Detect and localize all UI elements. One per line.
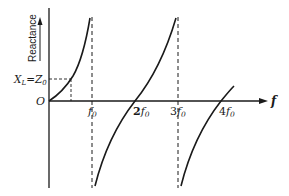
curve-branch-0-f0 xyxy=(49,18,90,101)
y-axis-label: Reactance xyxy=(27,14,38,62)
x-axis-label: f xyxy=(270,94,278,108)
tick-label-4f0: 4f0 xyxy=(219,105,235,119)
curve-branch-f0-3f0 xyxy=(95,18,176,186)
y-label-arrow-icon xyxy=(38,17,43,25)
tick-label-3f0: 3f0 xyxy=(170,105,186,119)
tick-label-2f0: 2f0 xyxy=(133,105,150,119)
reference-level-label: XL=Z0 xyxy=(13,73,47,87)
reactance-diagram: Reactance XL=Z0 O f0 2f0 3f0 4f0 f xyxy=(0,0,289,196)
origin-label: O xyxy=(36,95,45,108)
x-axis-arrow-icon xyxy=(259,98,268,104)
tick-label-f0: f0 xyxy=(87,105,97,119)
